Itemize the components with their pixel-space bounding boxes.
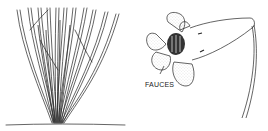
ground-line [6,124,125,125]
petal [173,62,194,86]
petal [152,52,171,70]
flower-throat [167,33,185,55]
stems-illustration [0,0,134,131]
fauces-label: FAUCES [145,81,174,88]
stems-drawing [0,0,134,131]
petal [180,22,190,30]
flower-illustration: FAUCES [134,0,268,131]
flower-drawing [134,0,268,131]
petal [147,33,166,50]
